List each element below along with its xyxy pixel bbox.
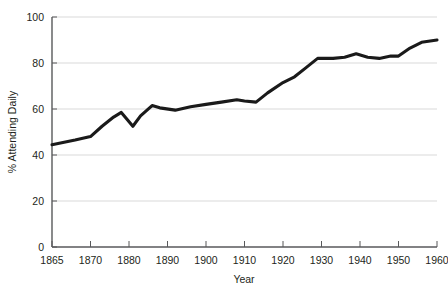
- y-axis-tick-marks: [52, 17, 57, 247]
- y-tick-label: 60: [32, 103, 44, 115]
- x-tick-label: 1890: [156, 254, 180, 266]
- line-chart: 1865187018801890190019101920193019401950…: [0, 0, 448, 300]
- y-tick-labels: 020406080100: [26, 11, 44, 253]
- x-tick-label: 1940: [348, 254, 372, 266]
- y-tick-label: 40: [32, 149, 44, 161]
- chart-container: 1865187018801890190019101920193019401950…: [0, 0, 448, 300]
- y-tick-label: 0: [38, 241, 44, 253]
- x-tick-label: 1960: [425, 254, 448, 266]
- x-tick-labels: 1865187018801890190019101920193019401950…: [40, 254, 448, 266]
- gridlines: [52, 17, 437, 201]
- x-tick-label: 1920: [271, 254, 295, 266]
- y-tick-label: 80: [32, 57, 44, 69]
- y-tick-label: 20: [32, 195, 44, 207]
- x-tick-label: 1880: [117, 254, 141, 266]
- x-axis-title: Year: [233, 273, 255, 285]
- y-tick-label: 100: [26, 11, 44, 23]
- x-tick-label: 1930: [310, 254, 334, 266]
- data-series-line: [52, 40, 437, 145]
- x-axis-ticks: [52, 241, 437, 247]
- x-tick-label: 1865: [40, 254, 64, 266]
- x-tick-label: 1910: [233, 254, 257, 266]
- x-tick-label: 1950: [387, 254, 411, 266]
- y-axis-title: % Attending Daily: [6, 90, 18, 173]
- x-tick-label: 1870: [79, 254, 103, 266]
- x-tick-label: 1900: [194, 254, 218, 266]
